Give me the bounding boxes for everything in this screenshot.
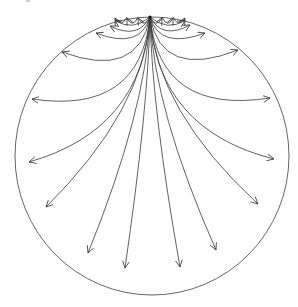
diagram-canvas — [0, 0, 298, 307]
arrow-edges — [29, 17, 274, 268]
arrow-edge-right-16 — [150, 17, 216, 250]
arrow-edge-right-13 — [150, 17, 270, 101]
source-point — [148, 15, 151, 18]
arrow-edge-right-11 — [150, 17, 205, 39]
arrow-fan-diagram — [0, 0, 298, 307]
arrow-edge-left-3 — [62, 17, 150, 61]
arrow-edge-right-17 — [150, 17, 180, 267]
arrow-edge-left-6 — [46, 17, 150, 207]
arrow-edge-right-15 — [150, 17, 258, 204]
arrow-edge-left-7 — [88, 17, 150, 253]
